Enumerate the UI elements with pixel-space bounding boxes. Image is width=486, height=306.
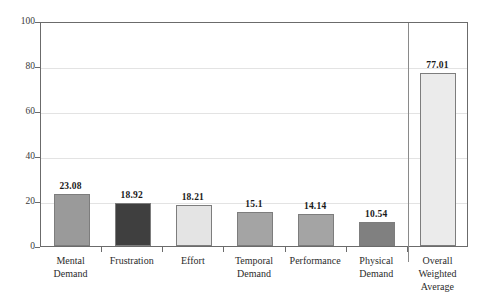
x-axis-label-line: Mental [37, 254, 105, 267]
x-axis-label-line: Performance [281, 254, 349, 267]
bar-value-label: 10.54 [346, 210, 406, 220]
x-axis-label-line: Average [403, 280, 471, 293]
bar [298, 214, 334, 246]
x-axis-category-label: OverallWeightedAverage [403, 254, 471, 293]
bar-value-label: 15.1 [224, 200, 284, 210]
x-axis-tick-mark [407, 247, 408, 252]
bar [237, 212, 273, 246]
x-axis-tick-mark [162, 247, 163, 252]
x-axis-label-line: Physical [342, 254, 410, 267]
bar-value-label: 23.08 [41, 182, 101, 192]
x-axis-label-line: Demand [37, 267, 105, 280]
bar-value-label: 18.92 [102, 191, 162, 201]
bar [54, 194, 90, 246]
x-axis-category-label: Effort [159, 254, 227, 267]
x-axis-category-label: Frustration [98, 254, 166, 267]
x-axis-label-line: Frustration [98, 254, 166, 267]
x-axis-category-label: PhysicalDemand [342, 254, 410, 280]
x-axis-tick-mark [346, 247, 347, 252]
x-axis-label-line: Overall [403, 254, 471, 267]
gridline [41, 113, 467, 114]
y-axis-tick-mark [35, 247, 40, 248]
x-axis-label-line: Weighted [403, 267, 471, 280]
bar [359, 222, 395, 246]
chart-page: 020406080100 23.0818.9218.2115.114.1410.… [0, 0, 486, 306]
x-axis-tick-mark [285, 247, 286, 252]
x-axis-category-label: TemporalDemand [220, 254, 288, 280]
y-axis-tick-label: 100 [1, 17, 35, 27]
x-axis-tick-mark [101, 247, 102, 252]
x-axis-label-line: Demand [342, 267, 410, 280]
gridline [41, 158, 467, 159]
y-axis-tick-label: 80 [1, 62, 35, 72]
x-axis-label-line: Demand [220, 267, 288, 280]
x-axis-category-label: Performance [281, 254, 349, 267]
gridline [41, 68, 467, 69]
y-axis-tick-label: 40 [1, 152, 35, 162]
x-axis-label-line: Temporal [220, 254, 288, 267]
x-axis-tick-mark [223, 247, 224, 252]
y-axis-tick-label: 0 [1, 242, 35, 252]
bar [420, 73, 456, 246]
y-axis-tick-label: 60 [1, 107, 35, 117]
group-separator-line [408, 23, 409, 262]
x-axis-category-label: MentalDemand [37, 254, 105, 280]
bar-value-label: 77.01 [407, 61, 467, 71]
bar-value-label: 14.14 [285, 202, 345, 212]
x-axis-label-line: Effort [159, 254, 227, 267]
bar [176, 205, 212, 246]
y-axis-tick-label: 20 [1, 197, 35, 207]
bar [115, 203, 151, 246]
bar-value-label: 18.21 [163, 193, 223, 203]
